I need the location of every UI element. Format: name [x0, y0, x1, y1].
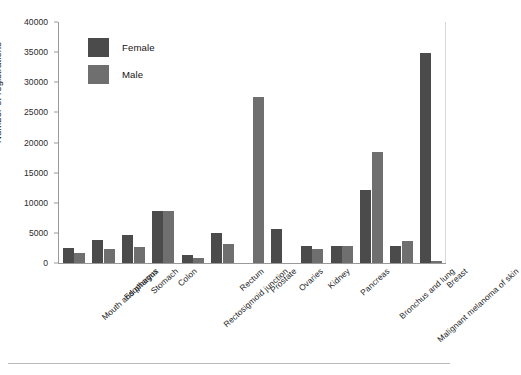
y-tick-label: 10000 [24, 198, 48, 208]
bar-group [238, 22, 268, 263]
bar-group [327, 22, 357, 263]
legend-swatch-female [88, 38, 109, 57]
x-tick-label: Pancreas [358, 266, 391, 297]
bar-male [342, 246, 353, 263]
bar-female [360, 190, 371, 263]
x-axis-category-labels: Mouth and pharynxEsophagusStomachColonRe… [59, 266, 446, 371]
chart-legend: FemaleMale [88, 38, 155, 92]
bar-female [63, 248, 74, 263]
bar-group [416, 22, 446, 263]
bar-male [253, 97, 264, 263]
legend-label: Female [122, 42, 155, 53]
bar-male [372, 152, 383, 263]
bar-group [208, 22, 238, 263]
bar-female [420, 53, 431, 263]
bar-male [312, 249, 323, 263]
y-axis-ticks: 0500010000150002000025000300003500040000 [0, 22, 54, 264]
bar-male [431, 261, 442, 263]
x-axis-line [58, 263, 446, 264]
bar-male [74, 253, 85, 263]
x-tick-label: Kidney [326, 266, 352, 291]
bar-female [301, 246, 312, 263]
bar-male [104, 249, 115, 263]
y-tick-label: 5000 [29, 228, 48, 238]
y-tick-label: 25000 [24, 107, 48, 117]
legend-item: Female [88, 38, 155, 57]
bar-female [390, 246, 401, 263]
x-tick-label: Bronchus and lung [397, 266, 456, 321]
bar-female [331, 246, 342, 263]
bar-group [178, 22, 208, 263]
x-tick-label: Ovaries [297, 266, 325, 293]
y-tick-label: 35000 [24, 47, 48, 57]
bar-group [297, 22, 327, 263]
bar-group [59, 22, 89, 263]
y-tick-label: 30000 [24, 77, 48, 87]
y-tick-label: 40000 [24, 17, 48, 27]
legend-swatch-male [88, 65, 109, 84]
bar-female [92, 240, 103, 263]
bar-female [152, 211, 163, 263]
bar-female [211, 233, 222, 263]
legend-label: Male [122, 69, 143, 80]
bar-female [271, 229, 282, 263]
bar-group [267, 22, 297, 263]
footer-divider [8, 363, 450, 364]
x-tick-label: Colon [176, 266, 199, 288]
bar-male [134, 247, 145, 263]
bar-female [182, 255, 193, 263]
bar-group [357, 22, 387, 263]
y-tick-label: 0 [43, 258, 48, 268]
bar-male [223, 244, 234, 263]
bar-male [163, 211, 174, 263]
bar-male [193, 258, 204, 263]
bar-group [386, 22, 416, 263]
legend-item: Male [88, 65, 155, 84]
y-tick-label: 20000 [24, 138, 48, 148]
bar-female [122, 235, 133, 263]
y-tick-label: 15000 [24, 168, 48, 178]
bar-male [402, 241, 413, 263]
